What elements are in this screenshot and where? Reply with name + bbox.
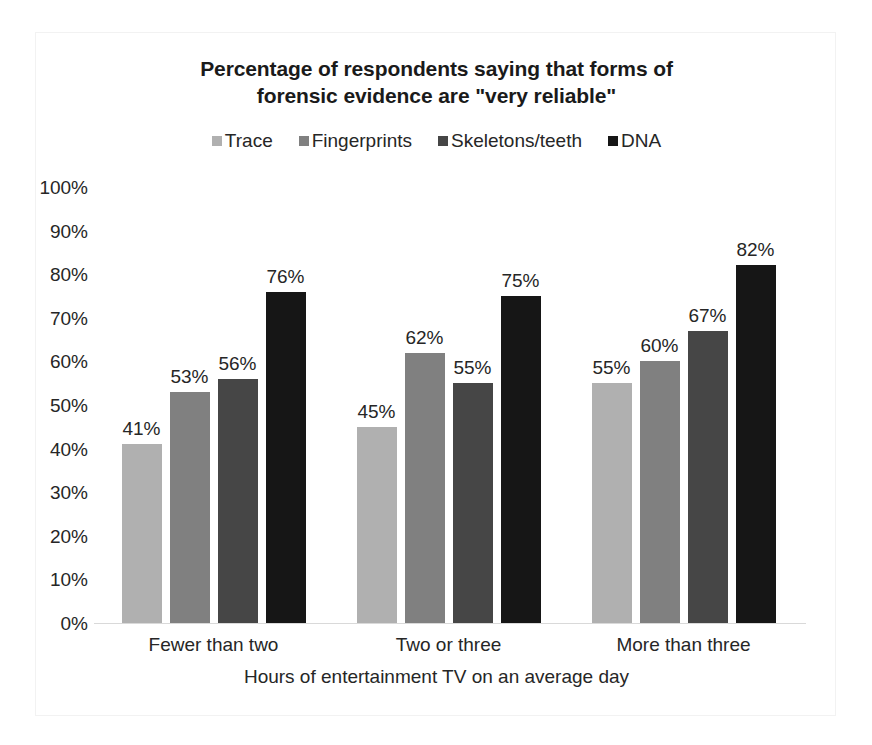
bar-value-label: 76% <box>266 267 304 286</box>
bar-value-label: 60% <box>640 336 678 355</box>
bar[interactable] <box>501 296 541 623</box>
x-axis-category-label: Fewer than two <box>149 633 279 657</box>
bar-value-label: 75% <box>501 271 539 290</box>
bar[interactable] <box>736 265 776 623</box>
chart-title: Percentage of respondents saying that fo… <box>36 55 837 109</box>
bar-value-label: 41% <box>122 419 160 438</box>
legend-swatch-icon <box>608 136 618 146</box>
bar-slot: 45% <box>357 187 397 623</box>
bar-value-label: 67% <box>688 306 726 325</box>
legend-label: Skeletons/teeth <box>451 131 582 150</box>
legend-swatch-icon <box>212 136 222 146</box>
bar-slot: 60% <box>640 187 680 623</box>
bar-slot: 53% <box>170 187 210 623</box>
legend-swatch-icon <box>299 136 309 146</box>
bar-slot: 55% <box>592 187 632 623</box>
y-axis-tick-label: 30% <box>36 483 88 502</box>
y-axis-tick-label: 10% <box>36 570 88 589</box>
bar-value-label: 62% <box>405 328 443 347</box>
y-axis-tick-label: 70% <box>36 308 88 327</box>
bar-value-label: 56% <box>218 354 256 373</box>
bar-group: 45%62%55%75% <box>331 187 566 623</box>
y-axis-tick-label: 40% <box>36 439 88 458</box>
bar-value-label: 45% <box>357 402 395 421</box>
bar-group: 41%53%56%76% <box>96 187 331 623</box>
legend-swatch-icon <box>438 136 448 146</box>
y-axis-tick-label: 20% <box>36 526 88 545</box>
bar-slot: 75% <box>501 187 541 623</box>
legend-item-dna[interactable]: DNA <box>608 131 661 150</box>
bar-slot: 62% <box>405 187 445 623</box>
x-axis-category-label: Two or three <box>396 633 502 657</box>
bar[interactable] <box>592 383 632 623</box>
bar[interactable] <box>453 383 493 623</box>
bar-value-label: 55% <box>453 358 491 377</box>
chart-title-line-2: forensic evidence are "very reliable" <box>36 82 837 109</box>
bar[interactable] <box>266 292 306 623</box>
y-axis-tick-label: 80% <box>36 265 88 284</box>
legend-item-fingerprints[interactable]: Fingerprints <box>299 131 412 150</box>
legend-item-trace[interactable]: Trace <box>212 131 273 150</box>
y-axis-tick-label: 100% <box>36 178 88 197</box>
y-axis: 100%90%80%70%60%50%40%30%20%10%0% <box>36 187 88 623</box>
bar-value-label: 82% <box>736 240 774 259</box>
chart-title-line-1: Percentage of respondents saying that fo… <box>36 55 837 82</box>
bar[interactable] <box>170 392 210 623</box>
plot-area: 41%53%56%76%45%62%55%75%55%60%67%82% <box>96 187 801 623</box>
y-axis-tick-label: 90% <box>36 221 88 240</box>
bar-slot: 76% <box>266 187 306 623</box>
bar[interactable] <box>640 361 680 623</box>
bar-group: 55%60%67%82% <box>566 187 801 623</box>
legend-label: DNA <box>621 131 661 150</box>
bar-slot: 56% <box>218 187 258 623</box>
legend-label: Fingerprints <box>312 131 412 150</box>
x-axis-category-labels: Fewer than twoTwo or threeMore than thre… <box>96 633 801 663</box>
x-axis-category-label: More than three <box>616 633 750 657</box>
bar[interactable] <box>357 427 397 623</box>
x-axis-title: Hours of entertainment TV on an average … <box>36 665 837 688</box>
chart-container: Percentage of respondents saying that fo… <box>35 32 836 716</box>
legend-item-skeletons-teeth[interactable]: Skeletons/teeth <box>438 131 582 150</box>
bar-slot: 41% <box>122 187 162 623</box>
bar-slot: 82% <box>736 187 776 623</box>
bar-slot: 55% <box>453 187 493 623</box>
bar[interactable] <box>122 444 162 623</box>
bar[interactable] <box>688 331 728 623</box>
y-axis-tick-label: 0% <box>36 614 88 633</box>
bar-slot: 67% <box>688 187 728 623</box>
bar-value-label: 55% <box>592 358 630 377</box>
y-axis-tick-label: 60% <box>36 352 88 371</box>
chart-legend: TraceFingerprintsSkeletons/teethDNA <box>36 131 837 150</box>
bar[interactable] <box>405 353 445 623</box>
bar[interactable] <box>218 379 258 623</box>
x-axis-line <box>94 623 806 624</box>
bar-value-label: 53% <box>170 367 208 386</box>
legend-label: Trace <box>225 131 273 150</box>
y-axis-tick-label: 50% <box>36 396 88 415</box>
